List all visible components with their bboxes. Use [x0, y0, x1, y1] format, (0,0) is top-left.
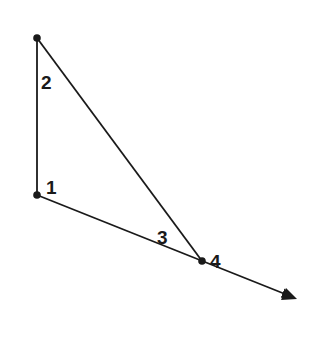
vertex-4-dot — [198, 257, 206, 265]
vertex-top-dot — [33, 34, 41, 42]
angle-label-1: 1 — [46, 177, 57, 198]
angle-label-3: 3 — [157, 227, 168, 248]
triangle-diagram: 1 2 3 4 — [0, 0, 321, 343]
angle-label-2: 2 — [41, 72, 52, 93]
angle-label-4: 4 — [210, 251, 221, 272]
vertex-1-dot — [33, 191, 41, 199]
